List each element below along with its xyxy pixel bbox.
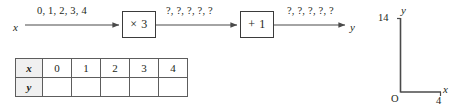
table-cell-x-2: 2 [101, 59, 130, 78]
flow-arrows [0, 0, 360, 48]
multiply-box-label: × 3 [130, 17, 147, 32]
table-row: y [16, 78, 188, 97]
x-axis-max-tick-label: 4 [436, 96, 441, 107]
add-box-label: + 1 [248, 17, 265, 32]
table-cell-x-4: 4 [159, 59, 188, 78]
table-cell-x-1: 1 [72, 59, 101, 78]
table-cell-y-2[interactable] [101, 78, 130, 97]
add-box[interactable]: + 1 [240, 11, 274, 38]
origin-label: O [391, 94, 399, 105]
table-cell-y-0[interactable] [43, 78, 72, 97]
flow-output-label: y [350, 22, 355, 33]
table-row: x 0 1 2 3 4 [16, 59, 188, 78]
value-table: x 0 1 2 3 4 y [15, 58, 188, 97]
table-cell-y-1[interactable] [72, 78, 101, 97]
table-cell-y-3[interactable] [130, 78, 159, 97]
table-cell-y-4[interactable] [159, 78, 188, 97]
y-axis-max-tick-label: 14 [378, 13, 389, 24]
multiply-box[interactable]: × 3 [122, 11, 156, 38]
function-machine-diagram: x 0, 1, 2, 3, 4 ?, ?, ?, ?, ? ?, ?, ?, ?… [0, 0, 360, 48]
table-row-header-x: x [16, 59, 43, 78]
table-cell-x-3: 3 [130, 59, 159, 78]
coordinate-axes: y 14 O x 4 [370, 4, 459, 109]
table-cell-x-0: 0 [43, 59, 72, 78]
x-axis-label: x [443, 84, 448, 95]
y-axis-label: y [401, 5, 406, 16]
table-row-header-y: y [16, 78, 43, 97]
